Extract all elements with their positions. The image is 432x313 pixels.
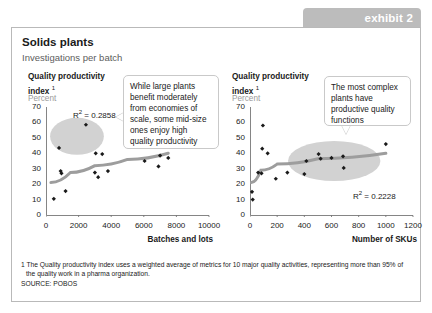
r-squared-annotation: R2 = 0.2228	[353, 190, 396, 201]
callout-right: The most complex plants have productive …	[324, 76, 411, 126]
y-tick-label: 30	[25, 164, 41, 173]
y-tick-label: 60	[25, 117, 41, 126]
y-tick-label: 50	[229, 133, 245, 142]
data-point-marker	[166, 156, 170, 160]
highlight-ellipse	[50, 118, 104, 155]
y-tick-label: 40	[229, 148, 245, 157]
y-tick-label: 30	[229, 164, 245, 173]
y-tick-label: 40	[25, 148, 41, 157]
exhibit-tab: exhibit 2	[303, 8, 421, 28]
data-point-marker	[274, 177, 278, 181]
y-tick-label: 70	[229, 102, 245, 111]
y-tick-label: 0	[25, 210, 41, 219]
source-line: SOURCE: POBOS	[21, 280, 77, 287]
footnote: 1 The Quality productivity index uses a …	[21, 261, 413, 278]
data-point-marker	[251, 197, 255, 201]
footnote-line-1: 1 The Quality productivity index uses a …	[21, 261, 403, 268]
y-tick-label: 10	[229, 195, 245, 204]
data-point-marker	[94, 151, 98, 155]
y-tick-label: 50	[25, 133, 41, 142]
y-tick-label: 20	[229, 179, 245, 188]
data-point-marker	[156, 164, 160, 168]
data-point-marker	[261, 123, 265, 127]
y-tick-label: 60	[229, 117, 245, 126]
callout-left: While large plants benefit moderately fr…	[123, 75, 219, 149]
page-subtitle: Investigations per batch	[22, 52, 122, 63]
x-tick-label: 1200	[396, 221, 430, 230]
data-point-marker	[260, 147, 264, 151]
data-point-marker	[384, 142, 388, 146]
y-tick-label: 70	[25, 102, 41, 111]
data-point-marker	[106, 169, 110, 173]
data-point-marker	[93, 170, 97, 174]
r-squared-annotation: R2 = 0.2858	[73, 109, 116, 120]
x-tick-label: 2000	[62, 221, 96, 230]
data-point-marker	[96, 175, 100, 179]
data-point-marker	[285, 170, 289, 174]
data-point-marker	[63, 189, 67, 193]
exhibit-page: exhibit 2 Solids plants Investigations p…	[0, 0, 432, 313]
data-point-marker	[100, 152, 104, 156]
y-tick-label: 0	[229, 210, 245, 219]
x-tick-label: 8000	[159, 221, 193, 230]
footnote-line-2: the quality work in a pharma organizatio…	[21, 270, 413, 279]
y-tick-label: 20	[25, 179, 41, 188]
data-point-marker	[266, 151, 270, 155]
chart-right-xlabel: Number of SKUs	[352, 235, 417, 244]
trend-line	[51, 153, 168, 182]
exhibit-card: Solids plants Investigations per batch Q…	[11, 27, 421, 302]
chart-left-xlabel: Batches and lots	[147, 235, 213, 244]
y-tick-label: 10	[25, 195, 41, 204]
x-tick-label: 0	[29, 221, 63, 230]
data-point-marker	[52, 197, 56, 201]
page-title: Solids plants	[22, 36, 94, 48]
x-tick-label: 6000	[127, 221, 161, 230]
x-tick-label: 4000	[94, 221, 128, 230]
x-tick-label: 10000	[192, 221, 226, 230]
